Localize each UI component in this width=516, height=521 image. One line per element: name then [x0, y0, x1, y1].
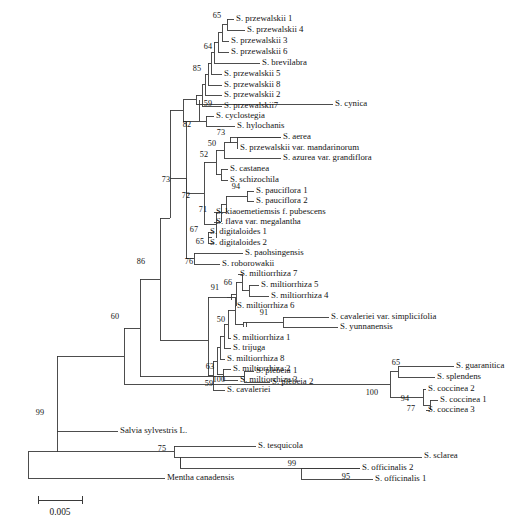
tree-tip-label: S. miltiorrhiza 5	[261, 279, 319, 289]
tree-tip-label: S. przewalskii 4	[247, 24, 304, 34]
bootstrap-value: 77	[407, 404, 415, 413]
scale-bar-label: 0.005	[49, 507, 70, 517]
phylogenetic-tree-figure: 0.005 S. przewalskii 1S. przewalskii 4S.…	[0, 0, 516, 521]
bootstrap-value: 50	[217, 315, 225, 324]
bootstrap-value: 91	[211, 283, 219, 292]
tree-tip-label: S. przewalskii 5	[224, 68, 281, 78]
tree-tip-label: S. splendens	[437, 371, 482, 381]
tree-tip-label: S. flava var. megalantha	[216, 216, 301, 226]
tree-tip-label: S. azurea var. grandiflora	[283, 152, 372, 162]
tip-label-group: S. przewalskii 1S. przewalskii 4S. przew…	[120, 13, 504, 483]
tree-tip-label: S. kiaoemetiemsis f. pubescens	[216, 206, 326, 216]
bootstrap-value: 86	[137, 257, 145, 266]
scale-bar: 0.005	[38, 496, 82, 517]
bootstrap-value: 100	[213, 375, 225, 384]
tree-tip-label: S. brevilabra	[262, 57, 307, 67]
bootstrap-value: 63	[206, 362, 214, 371]
bootstrap-value: 76	[185, 257, 193, 266]
tree-tip-label: S. castanea	[230, 163, 269, 173]
tree-tip-label: S. coccinea 3	[428, 404, 475, 414]
tree-tip-label: S. miltiorrhiza 8	[227, 353, 285, 363]
tree-tip-label: S. hylochanis	[237, 120, 285, 130]
tree-tip-label: S. officinalis 2	[362, 462, 413, 472]
tree-canvas: 0.005 S. przewalskii 1S. przewalskii 4S.…	[0, 0, 516, 521]
tree-tip-label: S. cavaleriei	[227, 384, 271, 394]
bootstrap-value: 82	[183, 120, 191, 129]
tree-tip-label: S. sclarea	[424, 450, 458, 460]
tree-tip-label: S. cyclostegia	[216, 110, 265, 120]
tree-tip-label: S. coccinea 2	[428, 383, 475, 393]
tree-tip-label: S. przewalskii 2	[224, 89, 280, 99]
tree-tip-label: S. miltiorrhiza 4	[271, 290, 329, 300]
bootstrap-value: 72	[182, 191, 190, 200]
bootstrap-value: 66	[224, 278, 232, 287]
bootstrap-value: 100	[366, 388, 378, 397]
bootstrap-value: 60	[111, 312, 119, 321]
tree-tip-label: S. guaranitica	[456, 360, 504, 370]
bootstrap-value: 65	[392, 358, 400, 367]
tree-tip-label: S. officinalis 1	[375, 473, 426, 483]
bootstrap-value: 91	[260, 308, 268, 317]
tree-tip-label: S. przewalskii 3	[231, 35, 288, 45]
tree-tip-label: S. roborowakii	[222, 258, 275, 268]
tree-tip-label: Salvia sylvestris L.	[120, 425, 187, 435]
tree-tip-label: S. cavaleriei var. simplicifolia	[331, 311, 436, 321]
bootstrap-value: 67	[190, 225, 198, 234]
bootstrap-value: 59	[204, 99, 212, 108]
tree-tip-label: S. przewalskii 1	[236, 13, 292, 23]
tree-tip-label: S. paohsingensis	[245, 247, 304, 257]
tree-tip-label: S. przewalskii var. mandarinorum	[240, 142, 359, 152]
tree-tip-label: S. trijuga	[233, 342, 265, 352]
tree-tip-label: S. pauciflora 1	[256, 185, 308, 195]
bootstrap-value: 65	[213, 11, 221, 20]
tree-tip-label: S. plebeia 2	[272, 376, 313, 386]
bootstrap-value: 94	[232, 182, 240, 191]
bootstrap-value: 99	[36, 408, 44, 417]
bootstrap-value: 52	[200, 150, 208, 159]
tree-tip-label: S. przewalskii7	[224, 100, 279, 110]
bootstrap-value: 99	[288, 459, 296, 468]
tree-tip-label: S. pauciflora 2	[256, 195, 308, 205]
bootstrap-value: 94	[401, 394, 409, 403]
tree-tip-label: S. cynica	[335, 98, 367, 108]
bootstrap-value: 50	[208, 139, 216, 148]
bootstrap-value: 71	[199, 205, 207, 214]
bootstrap-value: 73	[162, 175, 170, 184]
bootstrap-value: 95	[342, 472, 350, 481]
tree-tip-label: S. yunnanensis	[340, 321, 393, 331]
tree-tip-label: S. tesquicola	[258, 440, 303, 450]
tree-tip-label: S. digitaloides 1	[210, 226, 267, 236]
tree-tip-label: S. plebeia 1	[256, 365, 297, 375]
bootstrap-value: 75	[158, 444, 166, 453]
tree-tip-label: S. miltiorrhiza 7	[240, 268, 298, 278]
bootstrap-value: 73	[217, 128, 225, 137]
bootstrap-value: 85	[193, 64, 201, 73]
tree-tip-label: S. przewalskii 6	[231, 46, 288, 56]
tree-tip-label: S. coccinea 1	[440, 394, 487, 404]
bootstrap-value: 65	[196, 237, 204, 246]
tree-tip-label: S. digitaloides 2	[210, 237, 267, 247]
tree-tip-label: Mentha canadensis	[167, 472, 235, 482]
tree-tip-label: S. przewalskii 8	[224, 79, 281, 89]
tree-tip-label: S. aerea	[283, 131, 311, 141]
bootstrap-value: 64	[204, 42, 212, 51]
tree-tip-label: S. miltiorrhiza 1	[233, 332, 290, 342]
